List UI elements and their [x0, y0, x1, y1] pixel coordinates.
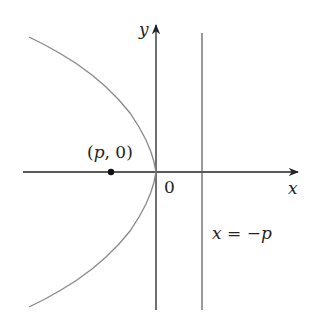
directrix-label: x = −p [212, 223, 272, 243]
parabola-diagram: y x 0 (p, 0) x = −p [0, 0, 310, 335]
y-axis-label: y [138, 19, 149, 39]
focus-point [108, 169, 114, 175]
focus-label: (p, 0) [87, 142, 133, 162]
x-axis-label: x [288, 178, 298, 198]
origin-label: 0 [164, 177, 175, 197]
